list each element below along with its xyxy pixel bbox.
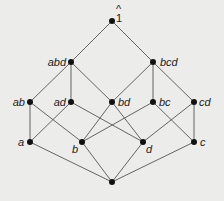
label-bc: bc <box>159 96 171 108</box>
node-cd <box>191 99 197 105</box>
edge-c-bottom <box>112 142 194 182</box>
label-cd: cd <box>199 96 212 108</box>
node-bottom <box>109 179 115 185</box>
edge-bc-c <box>153 102 194 142</box>
node-a <box>27 139 33 145</box>
hasse-diagram: ^ 1 abd bcd ab ad bd bc cd a b d c <box>0 0 224 201</box>
label-bcd: bcd <box>160 56 179 68</box>
node-bd <box>109 99 115 105</box>
node-c <box>191 139 197 145</box>
label-a: a <box>18 136 24 148</box>
edge-top-bcd <box>112 21 153 62</box>
node-top <box>109 18 115 24</box>
label-b: b <box>72 143 78 155</box>
label-abd: abd <box>48 56 67 68</box>
edge-abd-bd <box>71 62 112 102</box>
node-ab <box>27 99 33 105</box>
label-c: c <box>200 136 206 148</box>
edge-bc-b <box>82 102 153 142</box>
node-bcd <box>150 59 156 65</box>
labels: ^ 1 abd bcd ab ad bd bc cd a b d c <box>13 3 212 155</box>
edge-d-bottom <box>112 142 143 182</box>
edge-ad-a <box>30 102 71 142</box>
node-abd <box>68 59 74 65</box>
node-ad <box>68 99 74 105</box>
label-top: 1 <box>116 12 122 24</box>
edge-cd-d <box>143 102 194 142</box>
edge-top-abd <box>71 21 112 62</box>
label-d: d <box>146 143 153 155</box>
edge-b-bottom <box>82 142 112 182</box>
node-bc <box>150 99 156 105</box>
label-bd: bd <box>118 96 131 108</box>
edge-ab-b <box>30 102 82 142</box>
node-b <box>79 139 85 145</box>
label-ad: ad <box>54 96 67 108</box>
nodes <box>27 18 197 185</box>
label-ab: ab <box>13 96 25 108</box>
